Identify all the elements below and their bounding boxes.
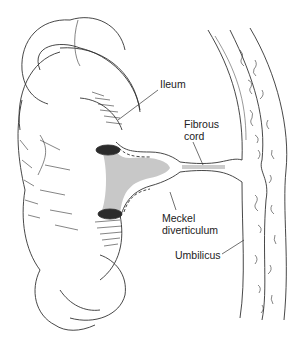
label-fibrous-cord: Fibrous cord	[184, 118, 219, 142]
fibrous-cord	[180, 159, 242, 182]
label-ileum: Ileum	[160, 78, 186, 90]
lumen-shading	[100, 146, 170, 215]
anatomy-illustration	[0, 0, 300, 348]
upper-ring	[96, 145, 120, 155]
abdominal-wall	[208, 28, 287, 320]
wall-texture	[240, 50, 276, 313]
label-umbilicus: Umbilicus	[175, 249, 221, 261]
meckel-diverticulum-diagram: Ileum Fibrous cord Meckel diverticulum U…	[0, 0, 300, 348]
label-meckel-diverticulum: Meckel diverticulum	[162, 212, 218, 236]
lower-ring	[98, 209, 122, 219]
